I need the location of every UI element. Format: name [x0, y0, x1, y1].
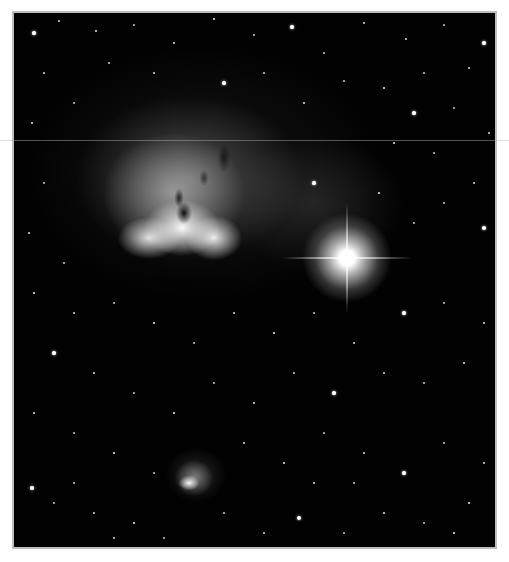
- star: [293, 372, 295, 374]
- star: [402, 311, 405, 314]
- star: [43, 182, 45, 184]
- star: [113, 537, 115, 539]
- star: [93, 512, 95, 514]
- star: [63, 262, 65, 264]
- star: [153, 472, 155, 474]
- scan-line-artifact: [0, 140, 509, 141]
- star: [443, 202, 445, 204]
- star: [483, 462, 485, 464]
- star: [113, 302, 115, 304]
- star: [383, 512, 385, 514]
- star: [468, 502, 471, 505]
- star: [443, 442, 445, 444]
- star: [297, 516, 301, 520]
- star: [33, 412, 35, 414]
- star: [332, 391, 335, 394]
- star: [133, 392, 135, 394]
- star: [312, 181, 315, 184]
- star: [93, 372, 95, 374]
- star: [363, 452, 365, 454]
- star: [413, 222, 415, 224]
- star: [213, 18, 216, 21]
- star: [133, 522, 136, 525]
- star: [263, 532, 265, 534]
- star: [383, 372, 385, 374]
- star: [273, 332, 276, 335]
- star: [253, 34, 255, 36]
- star: [423, 72, 425, 74]
- star: [163, 537, 165, 539]
- star: [353, 482, 355, 484]
- star: [378, 192, 381, 195]
- star: [43, 72, 45, 74]
- star: [33, 292, 36, 295]
- star: [343, 80, 345, 82]
- star: [243, 442, 245, 444]
- star: [313, 482, 315, 484]
- star: [133, 24, 135, 26]
- star: [412, 111, 415, 114]
- star: [383, 87, 386, 90]
- star: [95, 30, 98, 33]
- star: [223, 512, 225, 514]
- star: [453, 532, 456, 535]
- star: [353, 342, 355, 344]
- star: [28, 232, 30, 234]
- star: [153, 72, 155, 74]
- star: [443, 24, 445, 26]
- star-field: [14, 13, 495, 547]
- star: [323, 432, 325, 434]
- star: [443, 302, 445, 304]
- star: [402, 471, 405, 474]
- star: [73, 312, 75, 314]
- star: [253, 402, 255, 404]
- diffraction-spike-vertical: [346, 203, 348, 313]
- star: [468, 67, 470, 69]
- star: [283, 462, 286, 465]
- star: [488, 132, 490, 134]
- star: [433, 152, 435, 154]
- star: [153, 322, 156, 325]
- star: [32, 31, 35, 34]
- star: [52, 351, 55, 354]
- star: [343, 532, 345, 534]
- star: [263, 72, 265, 74]
- star: [363, 22, 365, 24]
- star: [108, 62, 110, 64]
- star: [113, 452, 116, 455]
- star: [453, 107, 455, 109]
- star: [482, 41, 485, 44]
- star: [473, 182, 475, 184]
- star: [483, 322, 485, 324]
- star: [323, 52, 325, 54]
- star: [173, 42, 175, 44]
- star: [73, 102, 75, 104]
- star: [73, 482, 75, 484]
- star: [233, 312, 235, 314]
- star: [193, 342, 195, 344]
- star: [73, 432, 75, 434]
- star: [30, 486, 34, 490]
- astronomy-image: [12, 11, 497, 549]
- star: [173, 412, 176, 415]
- star: [482, 226, 486, 230]
- star: [31, 122, 34, 125]
- star: [405, 38, 408, 41]
- star: [290, 25, 293, 28]
- star: [222, 81, 225, 84]
- star: [393, 142, 396, 145]
- star: [213, 382, 215, 384]
- star: [303, 102, 305, 104]
- star: [313, 312, 315, 314]
- star: [463, 362, 466, 365]
- star: [423, 522, 425, 524]
- star: [58, 20, 60, 22]
- star: [53, 502, 55, 504]
- star: [423, 382, 425, 384]
